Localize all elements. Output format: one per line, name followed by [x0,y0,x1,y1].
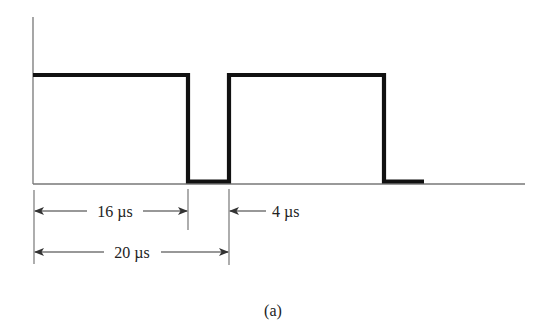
label-4us: 4 µs [272,203,299,221]
dimension-16us: 16 µs [35,203,187,221]
dimension-20us: 20 µs [35,244,228,262]
label-16us: 16 µs [97,203,132,221]
label-20us: 20 µs [114,244,149,262]
dimension-4us: 4 µs [230,203,299,221]
figure-caption: (a) [264,302,282,320]
axes [33,17,525,184]
waveform-diagram: 16 µs 4 µs 20 µs (a) [0,0,547,336]
pulse-waveform-figure: 16 µs 4 µs 20 µs (a) [0,0,547,336]
pulse-signal-trace [33,75,424,182]
